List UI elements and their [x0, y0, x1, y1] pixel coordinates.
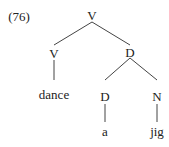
- leaf-a: a: [102, 125, 108, 138]
- example-number: (76): [8, 10, 30, 23]
- node-v: V: [49, 47, 58, 60]
- node-d-phrase: D: [125, 46, 134, 59]
- node-d: D: [100, 90, 109, 103]
- node-n: N: [152, 90, 161, 103]
- root-node-v: V: [87, 9, 96, 22]
- leaf-dance: dance: [39, 88, 69, 101]
- leaf-jig: jig: [150, 125, 164, 138]
